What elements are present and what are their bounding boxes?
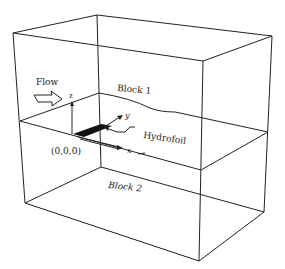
x-axis <box>78 137 145 154</box>
block-2-label: Block 2 <box>107 180 143 194</box>
flow-label: Flow <box>36 77 59 87</box>
top-face <box>13 15 272 61</box>
flow-arrow-icon <box>34 91 62 106</box>
hydrofoil-label: Hydrofoil <box>143 130 187 146</box>
bottom-face <box>25 167 264 261</box>
computational-domain-diagram: Flow z y x Hydrofoil (0,0,0) Block 1 Blo… <box>0 0 285 269</box>
y-axis <box>104 115 123 127</box>
z-axis <box>70 101 74 134</box>
origin-label: (0,0,0) <box>51 146 81 156</box>
hydrofoil-pointer <box>104 126 135 132</box>
z-axis-label: z <box>69 92 73 100</box>
y-axis-label: y <box>124 111 130 120</box>
block-1-label: Block 1 <box>117 83 152 96</box>
x-axis-label: x <box>127 146 132 155</box>
